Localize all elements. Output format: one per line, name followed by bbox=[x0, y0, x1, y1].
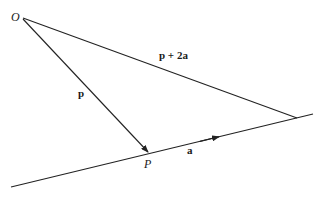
label-origin-o: O bbox=[11, 10, 20, 24]
label-vector-p: p bbox=[78, 87, 84, 99]
vector-diagram: O P p a p + 2a bbox=[0, 0, 326, 199]
vector-p bbox=[23, 19, 148, 152]
label-vector-p-plus-2a: p + 2a bbox=[159, 49, 188, 61]
line-through-p bbox=[11, 114, 313, 187]
vector-a-arrow bbox=[200, 137, 219, 142]
label-point-p: P bbox=[143, 157, 152, 171]
label-vector-a: a bbox=[187, 144, 193, 156]
vector-p-plus-2a bbox=[23, 18, 297, 118]
